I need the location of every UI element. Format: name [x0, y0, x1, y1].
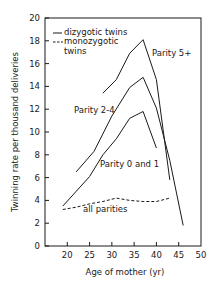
x-tick-label: 50: [196, 250, 207, 260]
twinning-rate-chart: 02468101214161820 20253035404550 dizygot…: [0, 0, 215, 282]
y-tick-label: 4: [35, 195, 40, 205]
x-tick-label: 45: [173, 250, 184, 260]
x-tick-label: 25: [84, 250, 95, 260]
y-tick-label: 0: [35, 241, 40, 251]
annotation-parity-5plus: Parity 5+: [152, 48, 191, 58]
legend-monozygotic-label-2: twins: [64, 46, 87, 56]
y-tick-label: 2: [35, 218, 40, 228]
x-tick-label: 35: [129, 250, 140, 260]
series-lines: [63, 40, 183, 226]
y-axis-ticks: 02468101214161820: [29, 13, 49, 251]
x-tick-label: 20: [62, 250, 73, 260]
y-tick-label: 8: [35, 150, 40, 160]
y-tick-label: 10: [29, 127, 40, 137]
x-axis-ticks: 20253035404550: [62, 242, 207, 260]
x-tick-label: 40: [151, 250, 162, 260]
legend-monozygotic-label: monozygotic: [64, 36, 119, 46]
y-tick-label: 16: [29, 59, 40, 69]
y-axis-label: Twinning rate per thousand deliveries: [10, 51, 20, 213]
annotation-all-parities: all parities: [83, 204, 128, 214]
y-tick-label: 6: [35, 173, 40, 183]
y-tick-label: 18: [29, 36, 40, 46]
x-axis-label: Age of mother (yr): [86, 267, 165, 277]
legend: dizygotic twins monozygotic twins: [53, 27, 128, 56]
x-tick-label: 30: [106, 250, 117, 260]
y-tick-label: 14: [29, 81, 40, 91]
y-tick-label: 20: [29, 13, 40, 23]
annotation-parity-0-1: Parity 0 and 1: [100, 159, 159, 169]
y-tick-label: 12: [29, 104, 40, 114]
annotation-parity-2-4: Parity 2-4: [74, 105, 115, 115]
